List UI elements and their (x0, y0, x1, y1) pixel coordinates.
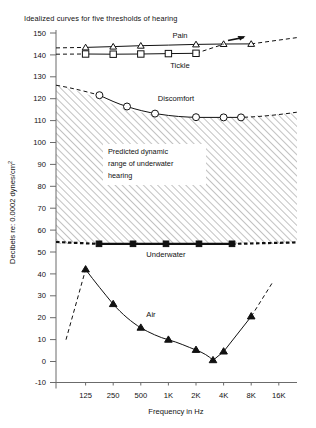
y-tick-label: -10 (35, 378, 46, 387)
x-tick-label: 125 (79, 391, 92, 400)
x-axis-tick-labels: 125 250 500 1K 2K 4K 8K 16K (79, 391, 285, 400)
audiogram-chart: 150 140 130 120 110 100 90 80 70 60 50 4… (0, 0, 316, 428)
series-label-air: Air (146, 310, 156, 319)
series-air (66, 266, 272, 363)
y-axis-title-exponent: 2 (7, 161, 13, 164)
x-tick-label: 4K (219, 391, 228, 400)
y-axis-ticks (50, 33, 56, 383)
y-axis-title-text: Decibels re: 0.0002 dynes/cm (8, 164, 17, 264)
y-tick-label: 150 (33, 29, 46, 38)
figure-container: Idealized curves for five thresholds of … (0, 0, 316, 428)
x-axis-title: Frequency in Hz (148, 407, 203, 416)
y-axis-title: Decibels re: 0.0002 dynes/cm2 (7, 161, 17, 264)
x-tick-label: 8K (247, 391, 256, 400)
y-tick-label: 80 (38, 182, 46, 191)
series-label-pain: Pain (172, 31, 187, 40)
pain-curve-arrow-icon (228, 36, 246, 41)
y-tick-label: 30 (38, 291, 46, 300)
x-tick-label: 500 (134, 391, 147, 400)
y-tick-label: 100 (33, 138, 46, 147)
x-tick-label: 250 (107, 391, 120, 400)
svg-text:Decibels re: 0.0002 dynes/cm2: Decibels re: 0.0002 dynes/cm2 (7, 161, 17, 264)
dynamic-range-note-line-3: hearing (108, 171, 132, 180)
y-tick-label: 130 (33, 72, 46, 81)
series-label-discomfort: Discomfort (158, 94, 195, 103)
y-tick-label: 120 (33, 94, 46, 103)
x-tick-label: 16K (272, 391, 286, 400)
dynamic-range-note-line-1: Predicted dynamic (108, 147, 168, 156)
series-label-underwater: Underwater (146, 250, 186, 259)
dynamic-range-note: Predicted dynamic range of underwater he… (103, 144, 206, 185)
y-tick-label: 70 (38, 204, 46, 213)
y-tick-label: 20 (38, 313, 46, 322)
dynamic-range-note-line-2: range of underwater (108, 159, 174, 168)
y-tick-label: 140 (33, 51, 46, 60)
series-label-tickle: Tickle (170, 61, 190, 70)
y-tick-label: 40 (38, 270, 46, 279)
y-tick-label: 90 (38, 160, 46, 169)
y-tick-label: 110 (34, 116, 46, 125)
y-tick-label: 0 (42, 357, 46, 366)
y-tick-label: 60 (38, 226, 46, 235)
y-axis-tick-labels: 150 140 130 120 110 100 90 80 70 60 50 4… (33, 29, 46, 388)
y-tick-label: 10 (38, 335, 46, 344)
x-tick-label: 2K (191, 391, 200, 400)
x-tick-label: 1K (164, 391, 173, 400)
y-tick-label: 50 (38, 248, 46, 257)
x-axis-ticks (56, 383, 279, 389)
